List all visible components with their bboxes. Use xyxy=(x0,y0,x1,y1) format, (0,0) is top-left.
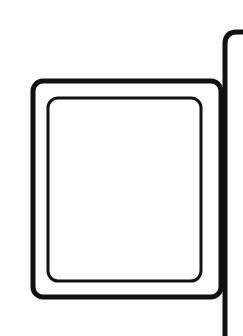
diagram-canvas xyxy=(0,0,243,336)
outer-frame xyxy=(33,81,221,297)
inner-frame xyxy=(48,98,201,281)
panel-edge xyxy=(225,32,243,336)
